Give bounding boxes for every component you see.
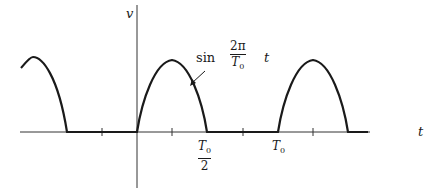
curve-label-fraction: 2π T0 <box>230 40 246 73</box>
waveform-curve <box>21 57 368 132</box>
half-period-label: T0 2 <box>198 140 211 173</box>
period-label: T0 <box>272 139 285 155</box>
period-subscript: 0 <box>280 146 285 155</box>
half-period-numerator: T <box>198 139 206 153</box>
half-period-denominator: 2 <box>201 160 209 173</box>
v-axis-label: v <box>126 6 133 21</box>
t-axis-label: t <box>418 124 423 139</box>
curve-label-denominator-subscript: 0 <box>239 62 244 71</box>
waveform-plot <box>0 0 440 191</box>
half-wave-rectified-sine-diagram: v t sin 2π T0 t T0 2 T0 <box>0 0 440 191</box>
half-period-subscript: 0 <box>206 146 211 155</box>
curve-label-func: sin <box>196 50 215 65</box>
curve-label-variable: t <box>264 50 269 65</box>
curve-label-numerator: 2π <box>230 40 246 53</box>
period-symbol: T <box>272 139 280 153</box>
